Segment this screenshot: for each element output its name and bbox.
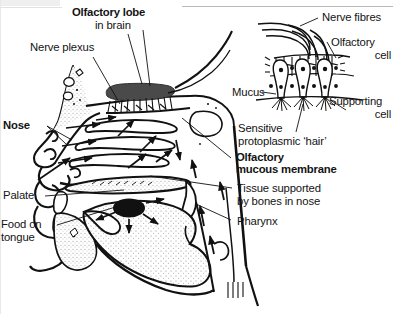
label-olfactory-cell-line2: cell bbox=[331, 49, 391, 61]
leader-nerve-fibres bbox=[300, 18, 318, 26]
food-bolus bbox=[113, 199, 145, 218]
arrow-nasopharynx-up bbox=[192, 160, 196, 178]
label-nerve-fibres: Nerve fibres bbox=[322, 11, 381, 23]
leader-olfactory-lobe bbox=[143, 30, 150, 86]
arrow-pharynx-up-3 bbox=[220, 182, 224, 200]
sphenoid-speck-3 bbox=[199, 143, 201, 145]
concha-scroll-3 bbox=[70, 168, 80, 177]
label-sensitive-hair-line1: Sensitive bbox=[238, 122, 283, 134]
sphenoid-speck-1 bbox=[207, 103, 209, 105]
label-olfactory-mucous-line1: Olfactory bbox=[236, 151, 284, 163]
label-tissue-supported-line2: by bones in nose bbox=[237, 195, 320, 207]
olfactory-cell-a bbox=[273, 60, 288, 98]
sphenoid-sinus bbox=[190, 111, 222, 136]
arrow-upper-1 bbox=[96, 117, 116, 120]
label-sensitive-hair-line2: protoplasmic ‘hair’ bbox=[238, 135, 327, 147]
inferior-concha bbox=[70, 154, 169, 167]
skull-speck-2 bbox=[73, 103, 75, 105]
pharynx-mid-wall bbox=[226, 188, 234, 282]
leader-in-brain bbox=[128, 34, 142, 84]
head-profile-group bbox=[30, 31, 258, 306]
sphenoid-speck-2 bbox=[215, 107, 217, 109]
label-palate: Palate bbox=[3, 189, 34, 201]
label-nose: Nose bbox=[3, 119, 30, 131]
label-olfactory-mucous-line2: mucous membrane bbox=[236, 163, 337, 175]
label-supporting-cell-line1: Supporting bbox=[329, 95, 382, 107]
concha-scroll-2 bbox=[44, 149, 56, 159]
epiglottis bbox=[214, 242, 229, 260]
olfactory-cell-c bbox=[317, 59, 332, 97]
inset-nerve-fibres bbox=[258, 23, 329, 63]
label-olfactory-cell-line1: Olfactory bbox=[331, 36, 375, 48]
skull-speck-3 bbox=[79, 99, 81, 101]
arrow-to-bulb-1 bbox=[118, 120, 134, 136]
label-nerve-plexus: Nerve plexus bbox=[30, 41, 94, 53]
label-supporting-cell-line2: cell bbox=[331, 108, 391, 120]
neck-posterior-outline bbox=[246, 266, 258, 306]
olfactory-mucosa-line bbox=[106, 108, 190, 113]
label-mucus: Mucus bbox=[232, 86, 265, 98]
arrow-pharynx-up-2 bbox=[210, 236, 214, 254]
arrow-down-pharynx bbox=[176, 140, 180, 160]
frontal-sinus-1 bbox=[64, 78, 74, 87]
skull-speck-1 bbox=[76, 89, 78, 91]
label-tongue: tongue bbox=[1, 231, 35, 243]
leader-nerve-plexus bbox=[93, 57, 120, 104]
inset-olfactory-cells bbox=[273, 59, 332, 98]
frontal-sinus-2 bbox=[63, 92, 72, 100]
label-in-brain: in brain bbox=[95, 19, 131, 31]
label-pharynx: Pharynx bbox=[237, 215, 277, 227]
arrow-back-1 bbox=[156, 150, 172, 162]
middle-concha bbox=[76, 137, 175, 150]
label-food-on: Food on bbox=[1, 218, 41, 230]
arrow-to-bulb-3 bbox=[128, 154, 146, 168]
label-tissue-supported-line1: Tissue supported bbox=[237, 182, 321, 194]
larynx-hairs bbox=[228, 282, 243, 298]
label-olfactory-lobe: Olfactory lobe bbox=[72, 6, 145, 18]
olfactory-cell-b bbox=[295, 59, 310, 97]
